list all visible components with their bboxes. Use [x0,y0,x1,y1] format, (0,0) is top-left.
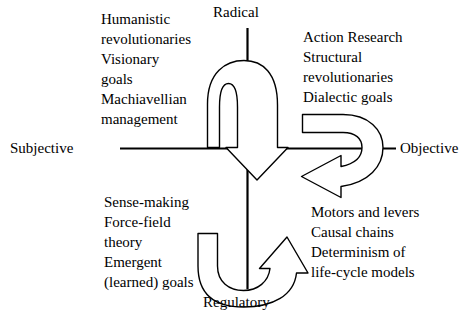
quadrant-text-top-right: Action Research Structural revolutionari… [303,27,453,107]
axis-label-objective: Objective [400,139,458,157]
quadrant-text-bottom-left: Sense-making Force-field theory Emergent… [104,192,230,292]
quadrant-text-bottom-right: Motors and levers Causal chains Determin… [311,202,461,282]
objective-radical-recurve-arrow [302,115,384,198]
axis-label-radical: Radical [213,3,259,21]
axis-label-subjective: Subjective [10,139,73,157]
quadrant-text-top-left: Humanistic revolutionaries Visionary goa… [101,9,221,129]
quadrant-diagram: Humanistic revolutionaries Visionary goa… [0,0,464,318]
axis-label-regulatory: Regulatory [203,293,270,311]
